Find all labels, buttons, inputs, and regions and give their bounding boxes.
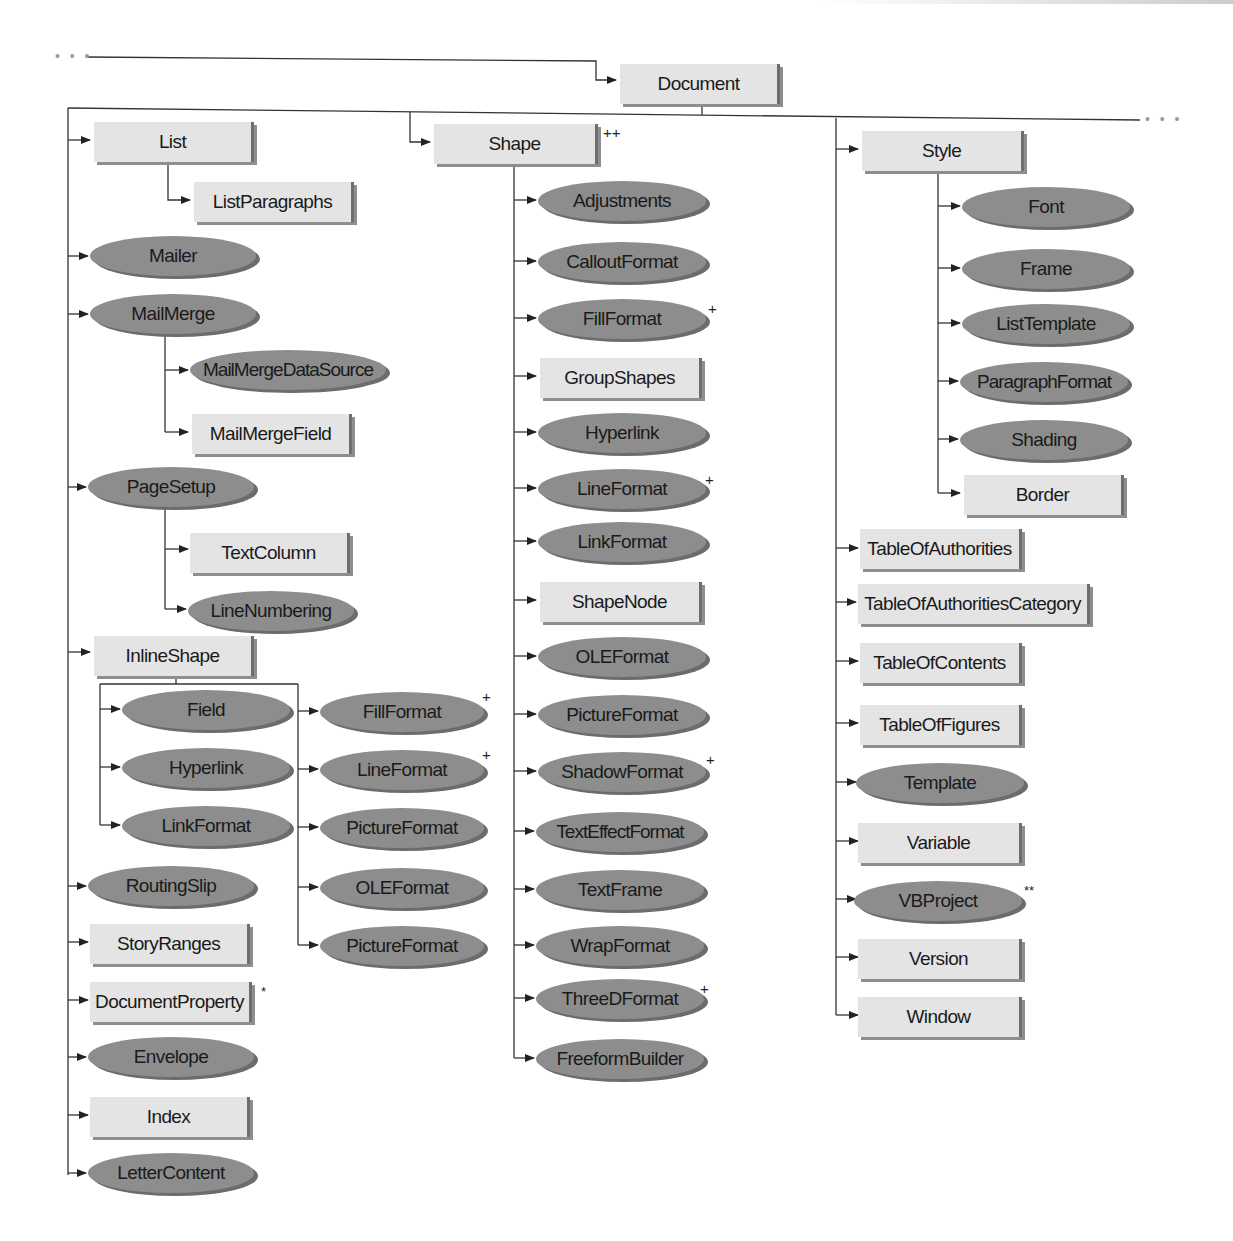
node-list: List	[94, 122, 254, 162]
mark-plus: +	[482, 688, 491, 705]
node-envelope: Envelope	[88, 1037, 254, 1077]
node-text-frame: TextFrame	[536, 870, 704, 910]
mark-plus: +	[708, 300, 717, 317]
node-document: Document	[620, 64, 780, 104]
node-template: Template	[856, 763, 1024, 803]
node-three-d-format: ThreeDFormat	[536, 979, 704, 1019]
node-frame: Frame	[962, 249, 1130, 289]
node-mail-merge-data-source: MailMergeDataSource	[190, 350, 386, 390]
node-group-shapes: GroupShapes	[540, 358, 702, 398]
node-shading: Shading	[960, 420, 1128, 460]
mark-double-plus: ++	[603, 124, 621, 141]
node-letter-content: LetterContent	[88, 1153, 254, 1193]
node-text-effect-format: TextEffectFormat	[536, 812, 704, 852]
node-ole-format: OLEFormat	[538, 637, 706, 677]
node-routing-slip: RoutingSlip	[88, 866, 254, 906]
node-inline-fill-format: FillFormat	[320, 692, 484, 732]
node-table-of-contents: TableOfContents	[860, 643, 1022, 683]
node-line-format: LineFormat	[538, 469, 706, 509]
mark-plus: +	[482, 746, 491, 763]
continuation-marker-right: • • •	[1145, 111, 1182, 127]
node-text-column: TextColumn	[190, 533, 350, 573]
node-document-property: DocumentProperty	[90, 982, 252, 1022]
node-table-of-authorities: TableOfAuthorities	[860, 529, 1022, 569]
node-shadow-format: ShadowFormat	[538, 752, 706, 792]
mark-double-star: **	[1024, 883, 1034, 898]
node-mailer: Mailer	[90, 236, 256, 276]
node-table-of-authorities-category: TableOfAuthoritiesCategory	[858, 584, 1090, 624]
node-list-paragraphs: ListParagraphs	[194, 182, 354, 222]
node-link-format: LinkFormat	[538, 522, 706, 562]
node-shape: Shape	[434, 124, 598, 164]
node-paragraph-format: ParagraphFormat	[960, 362, 1128, 402]
node-inline-line-format: LineFormat	[320, 750, 484, 790]
page-top-edge	[820, 0, 1233, 4]
node-callout-format: CalloutFormat	[538, 242, 706, 282]
node-font: Font	[962, 187, 1130, 227]
node-shape-node: ShapeNode	[540, 582, 702, 622]
node-picture-format: PictureFormat	[538, 695, 706, 735]
node-window: Window	[858, 997, 1022, 1037]
node-index: Index	[90, 1097, 250, 1137]
node-inline-field: Field	[122, 690, 290, 730]
node-line-numbering: LineNumbering	[188, 591, 354, 631]
node-version: Version	[858, 939, 1022, 979]
node-adjustments: Adjustments	[538, 181, 706, 221]
node-mail-merge: MailMerge	[90, 294, 256, 334]
node-variable: Variable	[858, 823, 1022, 863]
node-freeform-builder: FreeformBuilder	[536, 1039, 704, 1079]
node-inline-picture-format: PictureFormat	[320, 808, 484, 848]
node-inline-picture-format-2: PictureFormat	[320, 926, 484, 966]
node-style: Style	[862, 131, 1024, 171]
node-inline-shape: InlineShape	[94, 636, 254, 676]
mark-star: *	[261, 984, 266, 999]
node-table-of-figures: TableOfFigures	[860, 705, 1022, 745]
node-inline-hyperlink: Hyperlink	[122, 748, 290, 788]
node-wrap-format: WrapFormat	[536, 926, 704, 966]
node-list-template: ListTemplate	[962, 304, 1130, 344]
node-mail-merge-field: MailMergeField	[192, 414, 352, 454]
node-inline-link-format: LinkFormat	[122, 806, 290, 846]
node-vb-project: VBProject	[854, 881, 1022, 921]
node-page-setup: PageSetup	[88, 467, 254, 507]
node-inline-ole-format: OLEFormat	[320, 868, 484, 908]
node-story-ranges: StoryRanges	[90, 924, 250, 964]
node-border: Border	[964, 475, 1124, 515]
continuation-marker-left: • • •	[55, 48, 92, 64]
node-fill-format: FillFormat	[538, 299, 706, 339]
node-hyperlink: Hyperlink	[538, 413, 706, 453]
mark-plus: +	[700, 980, 709, 997]
mark-plus: +	[706, 751, 715, 768]
mark-plus: +	[705, 471, 714, 488]
